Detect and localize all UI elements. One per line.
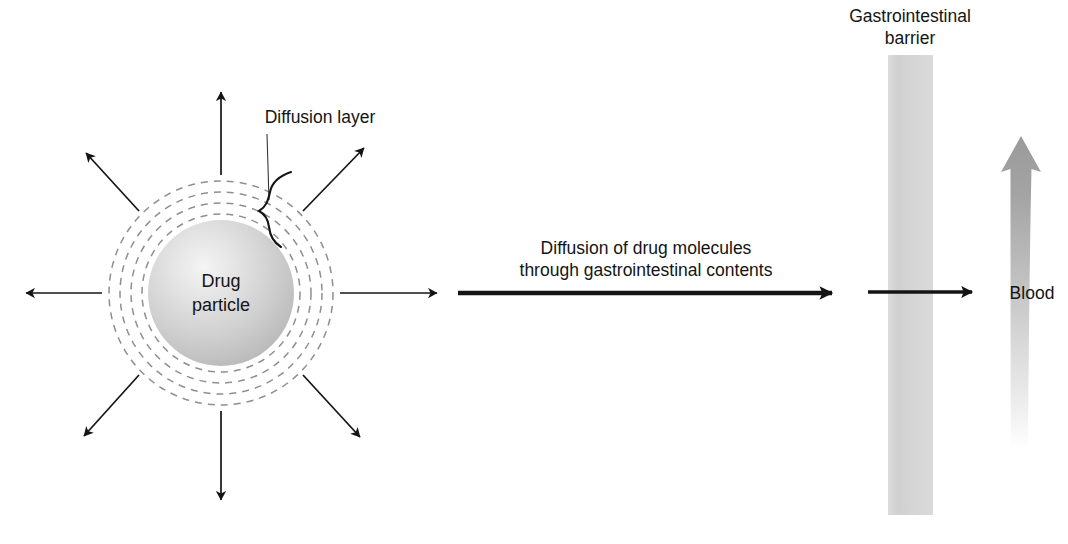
drug-particle-label-line1: Drug (201, 271, 240, 291)
diffusion-flow-label-line1: Diffusion of drug molecules (541, 238, 752, 258)
gi-barrier-group: Gastrointestinal barrier (849, 6, 972, 515)
drug-particle-label-line2: particle (192, 295, 250, 315)
radial-arrow-down-left (84, 375, 139, 436)
radial-arrow-up-right (303, 148, 364, 211)
diagram-canvas: Drug particle Diffusion layer D (0, 0, 1068, 544)
diffusion-layer-label: Diffusion layer (265, 107, 376, 127)
bulk-diffusion-group: Diffusion of drug molecules through gast… (458, 238, 832, 293)
diffusion-layer-leader-line (267, 134, 269, 200)
gi-barrier-label-line1: Gastrointestinal (849, 6, 971, 26)
blood-group: Blood (1001, 136, 1054, 448)
gi-barrier-bar (888, 55, 933, 515)
radial-arrow-up-left (86, 153, 139, 211)
radial-arrow-down-right (303, 375, 360, 437)
drug-particle-core (148, 220, 294, 366)
blood-label: Blood (1010, 283, 1055, 303)
diffusion-flow-label-line2: through gastrointestinal contents (520, 260, 773, 280)
drug-particle-group: Drug particle Diffusion layer (26, 92, 437, 500)
gi-barrier-label-line2: barrier (885, 28, 936, 48)
dissolution-absorption-diagram: Drug particle Diffusion layer D (0, 0, 1068, 544)
